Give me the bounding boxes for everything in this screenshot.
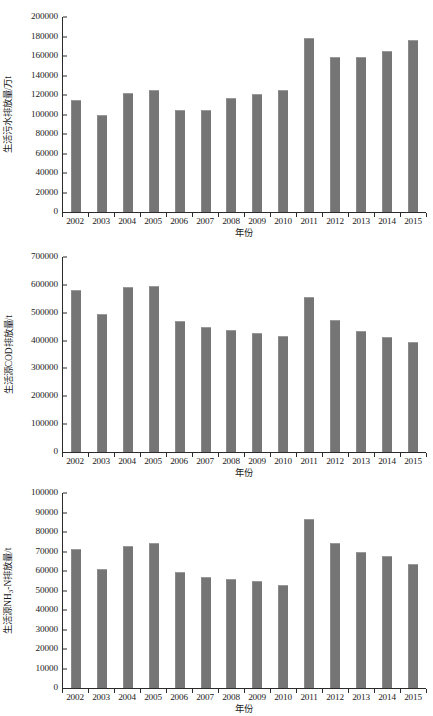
x-tick-mark [426, 689, 427, 693]
x-tick-label: 2005 [140, 456, 166, 467]
y-tick-label: 90000 [36, 508, 63, 517]
x-tick-label: 2009 [244, 216, 270, 227]
bar-cell [348, 493, 374, 688]
x-tick-label: 2008 [218, 692, 244, 703]
bar-cell [219, 493, 245, 688]
bar-cell [219, 257, 245, 452]
x-tick-label: 2015 [400, 216, 426, 227]
bar-cell [115, 257, 141, 452]
y-tick-label: 180000 [31, 32, 63, 41]
y-tick-label: 100000 [31, 488, 63, 497]
bar-cell [270, 493, 296, 688]
bar-cell [400, 493, 426, 688]
bar [149, 543, 159, 688]
x-tick-label: 2007 [192, 692, 218, 703]
plot-area: 0100000200000300000400000500000600000700… [62, 257, 426, 453]
bar [330, 320, 340, 452]
y-axis-title: 生活源NH3-N排放量/t [2, 493, 16, 689]
bar-cell [141, 17, 167, 212]
plot-area: 0100002000030000400005000060000700008000… [62, 493, 426, 689]
x-tick-label: 2015 [400, 692, 426, 703]
bar [201, 577, 211, 688]
x-axis-title: 年份 [62, 468, 426, 478]
bar [252, 581, 262, 688]
x-tick-mark [426, 453, 427, 457]
bar-cell [193, 257, 219, 452]
bar [97, 314, 107, 452]
y-tick-label: 20000 [36, 188, 63, 197]
bar-cell [244, 493, 270, 688]
bar-cell [167, 17, 193, 212]
x-axis-title: 年份 [62, 704, 426, 714]
bar [330, 543, 340, 688]
y-tick-label: 30000 [36, 625, 63, 634]
x-tick-label: 2006 [166, 456, 192, 467]
y-tick-label: 100000 [31, 110, 63, 119]
bar-cell [193, 17, 219, 212]
bar-cell [374, 493, 400, 688]
x-tick-label: 2003 [88, 692, 114, 703]
x-tick-label: 2004 [114, 216, 140, 227]
x-tick-label: 2011 [296, 456, 322, 467]
bar [226, 98, 236, 212]
bar [382, 556, 392, 688]
bar [304, 519, 314, 688]
y-tick-label: 200000 [31, 12, 63, 21]
chart-domestic-cod-emission: 生活源COD排放量/t 0100000200000300000400000500… [0, 240, 433, 480]
x-tick-mark [426, 213, 427, 217]
bar [123, 93, 133, 212]
x-tick-labels: 2002200320042005200620072008200920102011… [62, 692, 426, 703]
x-tick-label: 2014 [374, 216, 400, 227]
y-axis-title-text: 生活源COD排放量/t [4, 315, 13, 394]
x-tick-label: 2010 [270, 216, 296, 227]
bar [382, 337, 392, 452]
bar-cell [296, 17, 322, 212]
x-tick-label: 2002 [62, 692, 88, 703]
bar-cell [374, 17, 400, 212]
bar [382, 51, 392, 212]
y-tick-label: 700000 [31, 252, 63, 261]
bar-cell [270, 257, 296, 452]
bar-cell [89, 257, 115, 452]
x-tick-label: 2013 [348, 456, 374, 467]
bar-cell [141, 493, 167, 688]
y-tick-label: 120000 [31, 90, 63, 99]
chart-domestic-wastewater-discharge: 生活污水排放量/万t 02000040000600008000010000012… [0, 0, 433, 240]
bar [226, 579, 236, 688]
bar-cell [63, 257, 89, 452]
bar [97, 569, 107, 688]
bar [71, 100, 81, 212]
x-tick-label: 2014 [374, 456, 400, 467]
bar-cell [115, 17, 141, 212]
bar [97, 115, 107, 212]
x-tick-labels: 2002200320042005200620072008200920102011… [62, 456, 426, 467]
bar [356, 331, 366, 452]
bar-cell [296, 493, 322, 688]
bar [123, 546, 133, 688]
bar-cell [322, 493, 348, 688]
bar-cell [89, 493, 115, 688]
y-tick-label: 80000 [36, 129, 63, 138]
y-tick-label: 60000 [36, 566, 63, 575]
bar [226, 330, 236, 452]
x-tick-label: 2014 [374, 692, 400, 703]
x-tick-label: 2011 [296, 692, 322, 703]
bar [149, 286, 159, 452]
y-axis-title-text: 生活污水排放量/万t [4, 76, 13, 153]
x-tick-label: 2009 [244, 456, 270, 467]
bar-cell [244, 257, 270, 452]
bar [356, 57, 366, 212]
bar-cell [322, 17, 348, 212]
bar [408, 342, 418, 452]
plot-area: 0200004000060000800001000001200001400001… [62, 17, 426, 213]
x-tick-label: 2002 [62, 216, 88, 227]
bar-cell [244, 17, 270, 212]
bar-cell [348, 257, 374, 452]
y-tick-label: 40000 [36, 168, 63, 177]
bar-cell [219, 17, 245, 212]
x-tick-label: 2005 [140, 216, 166, 227]
bar-cell [296, 257, 322, 452]
y-tick-label: 600000 [31, 280, 63, 289]
bar [175, 321, 185, 452]
bar-cell [89, 17, 115, 212]
